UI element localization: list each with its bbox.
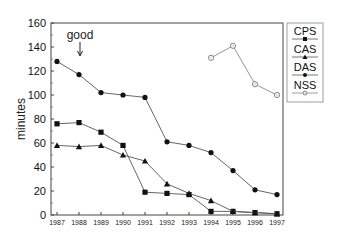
circle-marker-icon [186,143,191,148]
y-axis-ticks: 020406080100120140160 [28,17,54,221]
annotation-label: good [67,28,94,42]
circle-marker-icon [98,90,103,95]
square-marker-icon [98,130,103,135]
x-tick-label: 1996 [247,219,263,226]
circle-marker-icon [208,150,213,155]
square-marker-icon [76,120,81,125]
series-cps [54,120,279,216]
y-axis-title: minutes [14,98,28,140]
data-series [54,43,280,216]
line-chart: 020406080100120140160 198719881989199019… [0,0,341,235]
x-tick-label: 1992 [159,219,175,226]
legend-label: CAS [294,43,317,55]
x-tick-label: 1987 [49,219,65,226]
circle-marker-icon [274,192,279,197]
y-tick-label: 40 [34,161,46,173]
x-axis-ticks: 1987198819891990199119921993199419951996… [49,212,285,226]
x-tick-label: 1995 [225,219,241,226]
square-marker-icon [303,37,307,41]
circle-marker-icon [142,95,147,100]
x-tick-label: 1988 [71,219,87,226]
legend-item-cps: CPS [292,25,318,41]
y-tick-label: 140 [28,41,46,53]
x-tick-label: 1991 [137,219,153,226]
circle-marker-icon [230,168,235,173]
x-tick-label: 1997 [269,219,285,226]
circle-marker-icon [164,139,169,144]
circle-marker-icon [76,72,81,77]
legend-label: DAS [294,61,317,73]
series-nss [208,43,279,97]
series-line [57,61,277,194]
square-marker-icon [142,190,147,195]
circle-marker-icon [120,92,125,97]
y-tick-label: 0 [40,209,46,221]
square-marker-icon [120,143,125,148]
legend-label: CPS [294,25,317,37]
circle-marker-icon [303,73,307,77]
y-tick-label: 100 [28,89,46,101]
series-line [57,145,277,213]
legend: CPSCASDASNSS [287,23,323,102]
x-tick-label: 1994 [203,219,219,226]
annotation-good: good [67,28,94,56]
series-cas [54,142,280,216]
legend-label: NSS [294,79,317,91]
square-marker-icon [208,209,213,214]
y-tick-label: 20 [34,185,46,197]
x-tick-label: 1989 [93,219,109,226]
square-marker-icon [54,121,59,126]
series-line [211,46,277,95]
x-tick-label: 1990 [115,219,131,226]
series-line [57,123,277,214]
square-marker-icon [164,191,169,196]
y-tick-label: 60 [34,137,46,149]
legend-item-cas: CAS [292,43,318,59]
legend-item-nss: NSS [292,79,318,95]
circle-marker-icon [54,59,59,64]
y-tick-label: 120 [28,65,46,77]
y-tick-label: 160 [28,17,46,29]
y-tick-label: 80 [34,113,46,125]
circle-marker-icon [252,187,257,192]
x-tick-label: 1993 [181,219,197,226]
legend-item-das: DAS [292,61,318,77]
triangle-marker-icon [120,152,126,158]
series-das [54,59,279,197]
